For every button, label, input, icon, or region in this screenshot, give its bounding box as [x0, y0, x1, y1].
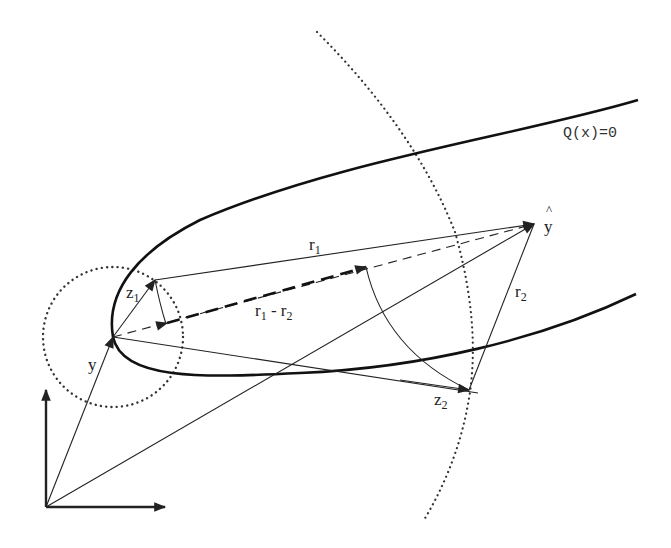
vector-origin-to-y — [46, 337, 113, 507]
arc-r2-rotation — [366, 267, 469, 390]
vector-origin-to-y-hat — [46, 224, 534, 507]
vector-r2 — [469, 224, 534, 390]
label-z1: z1 — [126, 283, 140, 305]
label-r2: r2 — [515, 282, 527, 304]
large-dotted-arc — [317, 32, 473, 520]
position-vectors — [46, 224, 534, 507]
label-r1: r1 — [309, 235, 321, 257]
label-y: y — [88, 355, 97, 374]
label-y-hat: y — [544, 217, 553, 236]
label-z2: z2 — [434, 390, 448, 412]
line-y-to-z2 — [113, 337, 478, 393]
label-y-hat-accent: ^ — [546, 202, 552, 217]
constraint-surface-curve — [112, 100, 638, 376]
vector-r1 — [155, 224, 534, 280]
label-r1-minus-r2: r1 - r2 — [255, 301, 293, 323]
curve-label: Q(x)=0 — [563, 125, 617, 142]
diagram-canvas: Q(x)=0 y y ^ z1 z2 r1 r2 r1 - r2 — [0, 0, 671, 548]
